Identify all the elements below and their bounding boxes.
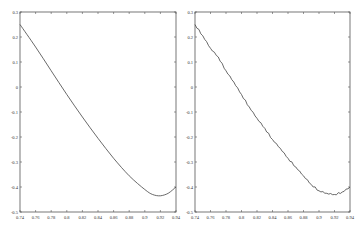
- y-tick-label: -0.5: [11, 210, 19, 215]
- left-plot-panel: 0.740.760.780.80.820.840.860.880.90.920.…: [11, 10, 181, 221]
- y-tick-label: -0.2: [11, 135, 18, 140]
- y-tick-label: 0.2: [12, 35, 18, 40]
- x-tick-label: 0.92: [331, 215, 339, 220]
- x-tick-label: 0.78: [222, 215, 231, 220]
- y-tick-label: 0: [191, 85, 194, 90]
- x-tick-label: 0.86: [284, 215, 293, 220]
- y-tick-label: 0.1: [12, 60, 18, 65]
- x-tick-label: 0.76: [207, 215, 216, 220]
- x-tick-label: 0.86: [110, 215, 119, 220]
- data-line-smooth: [20, 25, 176, 196]
- y-tick-label: 0.2: [187, 35, 193, 40]
- x-tick-label: 0.8: [64, 215, 70, 220]
- x-tick-label: 0.76: [32, 215, 41, 220]
- y-tick-label: -0.2: [186, 135, 193, 140]
- x-tick-label: 0.94: [172, 215, 181, 220]
- x-tick-label: 0.88: [300, 215, 309, 220]
- x-tick-label: 0.84: [94, 215, 103, 220]
- figure: 0.740.760.780.80.820.840.860.880.90.920.…: [0, 0, 362, 236]
- x-tick-label: 0.94: [346, 215, 355, 220]
- y-tick-label: -0.4: [186, 185, 194, 190]
- x-tick-label: 0.9: [142, 215, 148, 220]
- plot-frame: [195, 12, 350, 212]
- y-tick-label: -0.5: [186, 210, 194, 215]
- data-line-noisy: [195, 25, 350, 195]
- x-tick-label: 0.74: [16, 215, 25, 220]
- y-tick-label: -0.4: [11, 185, 19, 190]
- y-tick-label: -0.3: [186, 160, 194, 165]
- right-plot-panel: 0.740.760.780.80.820.840.860.880.90.920.…: [186, 10, 355, 221]
- x-tick-label: 0.78: [47, 215, 56, 220]
- y-tick-label: -0.1: [186, 110, 193, 115]
- x-tick-label: 0.74: [191, 215, 200, 220]
- y-tick-label: 0.3: [187, 10, 193, 15]
- x-tick-label: 0.88: [125, 215, 134, 220]
- y-tick-label: -0.1: [11, 110, 18, 115]
- y-tick-label: -0.3: [11, 160, 19, 165]
- x-tick-label: 0.92: [156, 215, 164, 220]
- x-tick-label: 0.8: [239, 215, 245, 220]
- x-tick-label: 0.82: [78, 215, 86, 220]
- y-tick-label: 0.3: [12, 10, 18, 15]
- x-tick-label: 0.9: [316, 215, 322, 220]
- y-tick-label: 0: [16, 85, 19, 90]
- x-tick-label: 0.82: [253, 215, 261, 220]
- x-tick-label: 0.84: [269, 215, 278, 220]
- y-tick-label: 0.1: [187, 60, 193, 65]
- plot-frame: [20, 12, 176, 212]
